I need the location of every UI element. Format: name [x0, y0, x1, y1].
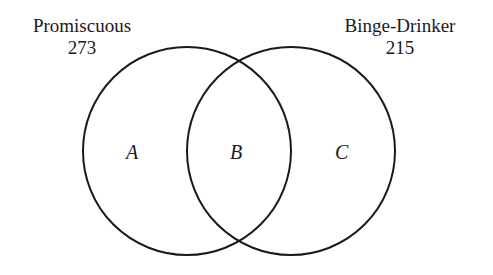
region-a: A — [126, 141, 138, 164]
set-label-binge-drinker: Binge-Drinker 215 — [330, 15, 470, 59]
set-count: 215 — [330, 37, 470, 59]
set-name: Binge-Drinker — [330, 15, 470, 37]
region-b: B — [230, 141, 242, 164]
set-label-promiscuous: Promiscuous 273 — [22, 15, 142, 59]
set-count: 273 — [22, 37, 142, 59]
set-name: Promiscuous — [22, 15, 142, 37]
region-c: C — [335, 141, 348, 164]
